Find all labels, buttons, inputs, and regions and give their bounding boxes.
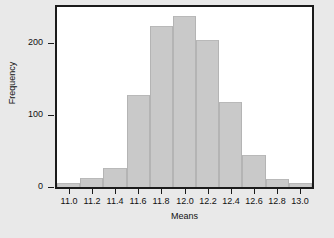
histogram-bar — [80, 178, 103, 187]
x-axis-tick — [69, 189, 70, 194]
x-axis-tick — [231, 189, 232, 194]
histogram-bar — [219, 102, 242, 187]
histogram-bar — [150, 26, 173, 187]
y-axis-tick-label: 200 — [28, 38, 43, 47]
x-axis-tick — [115, 189, 116, 194]
x-axis-tick — [208, 189, 209, 194]
histogram-bar — [266, 179, 289, 187]
x-axis-tick — [254, 189, 255, 194]
histogram-bar — [242, 155, 265, 187]
histogram-bar — [173, 16, 196, 187]
x-axis-tick — [92, 189, 93, 194]
x-axis-tick — [185, 189, 186, 194]
histogram-bar — [127, 95, 150, 187]
x-axis-tick — [277, 189, 278, 194]
y-axis-tick — [48, 115, 54, 116]
y-axis-tick — [48, 187, 54, 188]
x-axis-tick — [138, 189, 139, 194]
histogram-bar — [103, 168, 126, 187]
histogram-bar — [196, 40, 219, 187]
y-axis-tick — [48, 43, 54, 44]
x-axis-label: Means — [55, 211, 314, 221]
plot-area — [57, 7, 312, 187]
y-axis-label: Frequency — [7, 47, 17, 119]
plot-frame — [55, 5, 314, 189]
x-axis-tick — [161, 189, 162, 194]
x-axis-tick-label: 13.0 — [285, 196, 315, 206]
histogram-bar — [289, 183, 312, 187]
x-axis-tick — [300, 189, 301, 194]
x-axis: 11.011.211.411.611.812.012.212.412.612.8… — [0, 189, 334, 238]
histogram-bar — [57, 183, 80, 187]
y-axis-tick-label: 100 — [28, 110, 43, 119]
histogram-figure: Frequency 0100200 11.011.211.411.611.812… — [0, 0, 334, 238]
